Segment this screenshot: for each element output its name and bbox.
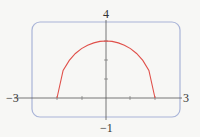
x-min-label: −3 <box>6 92 19 104</box>
x-max-label: 3 <box>183 92 189 104</box>
y-max-label: 4 <box>103 8 109 20</box>
y-min-label: −1 <box>100 122 113 134</box>
graph-plot <box>0 0 200 137</box>
